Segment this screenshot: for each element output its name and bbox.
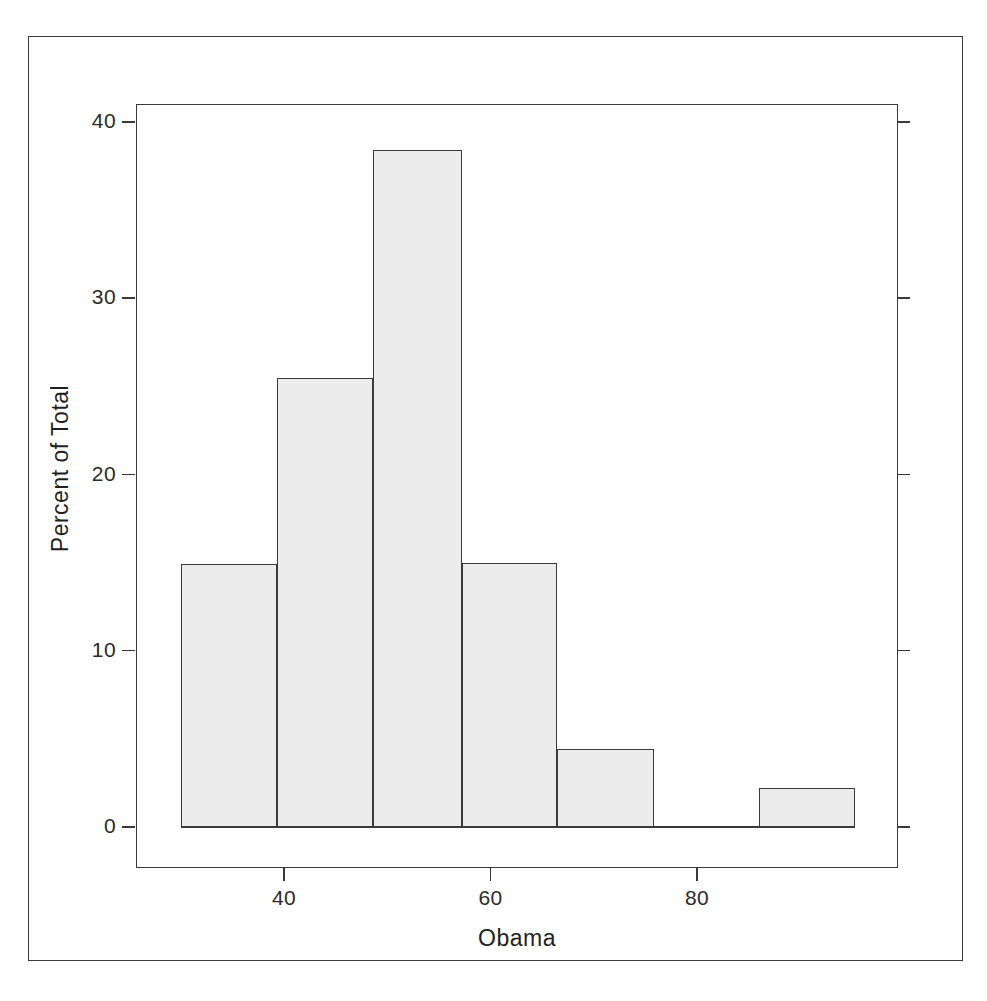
histogram-figure: 0 10 20 30 40 40 60 80 Obama Percent of … [0, 0, 987, 1001]
histogram-bar [759, 788, 855, 827]
y-tick-mark [122, 121, 135, 123]
y-tick-mark [122, 826, 135, 828]
x-tick-mark [490, 868, 492, 881]
right-frame-tick [897, 121, 910, 123]
histogram-bar [277, 378, 373, 827]
x-axis-title: Obama [136, 925, 898, 952]
right-frame-tick [897, 474, 910, 476]
y-tick-label: 10 [64, 638, 116, 662]
y-tick-mark [122, 297, 135, 299]
x-tick-label: 60 [456, 886, 526, 910]
right-frame-tick [897, 826, 910, 828]
plot-area: 0 10 20 30 40 40 60 80 [0, 0, 987, 1001]
y-tick-label: 0 [64, 814, 116, 838]
histogram-bar [557, 749, 654, 827]
x-tick-mark [283, 868, 285, 881]
right-frame-tick [897, 297, 910, 299]
histogram-bar [373, 150, 462, 827]
histogram-bar [181, 564, 277, 827]
y-axis-title: Percent of Total [47, 339, 74, 599]
right-frame-tick [897, 650, 910, 652]
y-tick-label: 30 [64, 285, 116, 309]
y-tick-label: 40 [64, 109, 116, 133]
y-tick-mark [122, 474, 135, 476]
x-tick-label: 40 [249, 886, 319, 910]
histogram-bar [462, 563, 557, 827]
x-tick-mark [696, 868, 698, 881]
x-tick-label: 80 [662, 886, 732, 910]
y-tick-mark [122, 650, 135, 652]
x-axis-baseline [181, 826, 855, 828]
